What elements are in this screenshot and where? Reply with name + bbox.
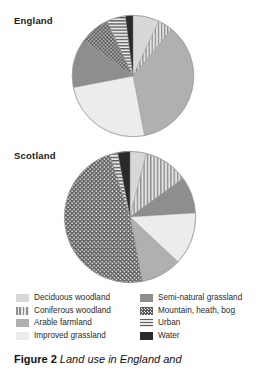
pie-chart-scotland xyxy=(63,150,197,284)
legend: Deciduous woodland Coniferous woodland A… xyxy=(16,292,256,344)
legend-label-mountain-heath-bog: Mountain, heath, bog xyxy=(158,307,235,315)
region-label-england: England xyxy=(14,15,53,26)
legend-label-coniferous-woodland: Coniferous woodland xyxy=(34,307,111,315)
legend-item-semi-natural-grassland: Semi-natural grassland xyxy=(140,292,242,305)
legend-swatch-semi-natural-grassland xyxy=(140,294,153,302)
legend-label-deciduous-woodland: Deciduous woodland xyxy=(34,294,110,302)
legend-label-arable-farmland: Arable farmland xyxy=(34,319,92,327)
legend-swatch-arable-farmland xyxy=(16,319,29,327)
legend-item-arable-farmland: Arable farmland xyxy=(16,317,111,330)
region-label-scotland: Scotland xyxy=(14,150,56,161)
legend-swatch-urban xyxy=(140,319,153,327)
figure-caption: Figure 2 Land use in England and xyxy=(14,353,182,365)
legend-item-deciduous-woodland: Deciduous woodland xyxy=(16,292,111,305)
legend-item-coniferous-woodland: Coniferous woodland xyxy=(16,305,111,318)
figure-number: Figure 2 xyxy=(14,353,57,365)
legend-label-improved-grassland: Improved grassland xyxy=(34,332,106,340)
legend-swatch-deciduous-woodland xyxy=(16,294,29,302)
legend-label-urban: Urban xyxy=(158,319,180,327)
legend-column-left: Deciduous woodland Coniferous woodland A… xyxy=(16,292,111,342)
legend-item-improved-grassland: Improved grassland xyxy=(16,330,111,343)
legend-swatch-coniferous-woodland xyxy=(16,307,29,315)
legend-column-right: Semi-natural grassland Mountain, heath, … xyxy=(140,292,242,342)
figure-container: England xyxy=(0,0,259,376)
legend-swatch-improved-grassland xyxy=(16,332,29,340)
legend-label-water: Water xyxy=(158,332,180,340)
figure-caption-text: Land use in England and xyxy=(60,353,182,365)
pie-slices-scotland xyxy=(64,151,195,282)
legend-item-water: Water xyxy=(140,330,242,343)
legend-swatch-water xyxy=(140,332,153,340)
pie-chart-england xyxy=(71,14,195,138)
pie-slices-england xyxy=(72,15,194,137)
legend-swatch-mountain-heath-bog xyxy=(140,307,153,315)
legend-label-semi-natural-grassland: Semi-natural grassland xyxy=(158,294,242,302)
legend-item-urban: Urban xyxy=(140,317,242,330)
legend-item-mountain-heath-bog: Mountain, heath, bog xyxy=(140,305,242,318)
